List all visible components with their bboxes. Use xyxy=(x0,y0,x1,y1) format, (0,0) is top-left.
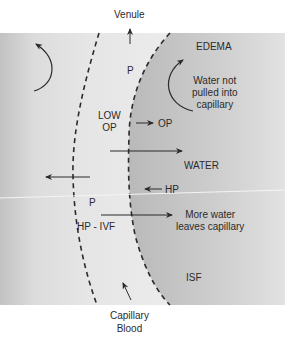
water-not-pulled-label: Water not pulled into capillary xyxy=(192,75,238,111)
low-op-label: LOW OP xyxy=(98,110,121,134)
water-label: WATER xyxy=(184,160,219,171)
isf-label: ISF xyxy=(186,272,202,283)
more-water-label: More water leaves capillary xyxy=(176,209,244,233)
p-bottom-label: P xyxy=(89,197,96,208)
hp-ivf-label: HP - IVF xyxy=(77,221,115,232)
op-label: OP xyxy=(158,118,172,129)
capillary-blood-label: Capillary Blood xyxy=(110,309,149,335)
venule-label: Venule xyxy=(114,9,145,20)
hp-label: HP xyxy=(165,184,179,195)
capillary-edema-diagram: Venule EDEMA P Water not pulled into cap… xyxy=(0,0,285,338)
diagram-canvas xyxy=(0,0,285,338)
edema-label: EDEMA xyxy=(196,41,232,52)
p-top-label: P xyxy=(127,65,134,76)
